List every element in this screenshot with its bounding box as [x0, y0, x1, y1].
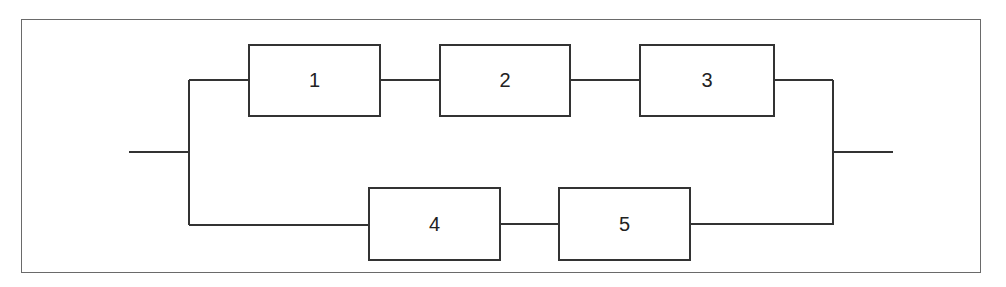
block-1-label: 1: [309, 69, 320, 92]
block-5-label: 5: [619, 213, 630, 236]
block-3: 3: [639, 44, 775, 117]
block-2-label: 2: [499, 69, 510, 92]
block-4-label: 4: [429, 213, 440, 236]
block-3-label: 3: [701, 69, 712, 92]
block-1: 1: [248, 44, 381, 117]
block-4: 4: [368, 187, 501, 261]
block-5: 5: [558, 187, 691, 261]
block-2: 2: [439, 44, 571, 117]
